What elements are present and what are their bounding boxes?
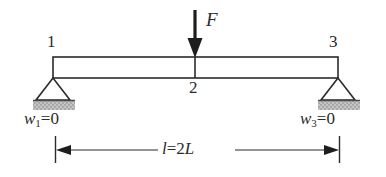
bc-subscript-3: 3 [311, 117, 317, 129]
load-arrow-F [188, 10, 203, 58]
support-left-pin [33, 78, 75, 110]
dimension-arrowhead-right [324, 145, 339, 155]
bc-subscript-1: 1 [35, 117, 41, 129]
bc-equals-3: =0 [317, 109, 335, 128]
dimension-label-span: l=2L [158, 140, 198, 157]
bc-symbol-w1: w [24, 109, 35, 128]
dimension-equals: =2 [167, 139, 185, 158]
beam-diagram: 1 2 3 F w1=0 w3=0 l=2L [0, 0, 386, 177]
load-label-F: F [206, 10, 218, 29]
support-right-pin [318, 78, 360, 110]
bc-equals-1: =0 [41, 109, 59, 128]
node-label-2: 2 [189, 79, 198, 96]
bc-symbol-w3: w [300, 109, 311, 128]
bc-label-w3: w3=0 [300, 110, 335, 127]
node-label-1: 1 [47, 33, 56, 50]
dimension-symbol-L: L [185, 139, 194, 158]
bc-label-w1: w1=0 [24, 110, 59, 127]
node-label-3: 3 [329, 33, 338, 50]
dimension-arrowhead-left [56, 145, 71, 155]
